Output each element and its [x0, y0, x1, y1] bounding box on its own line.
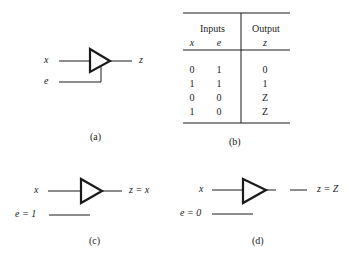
- table-cell: 0: [209, 93, 229, 103]
- a-input-x-label: x: [44, 55, 48, 65]
- a-caption: (a): [90, 132, 101, 142]
- tristate-buffer-d: [212, 179, 307, 214]
- table-group-header-output: Output: [252, 24, 280, 34]
- table-col-x: x: [182, 38, 202, 48]
- d-caption: (d): [252, 236, 264, 246]
- table-cell: 1: [209, 79, 229, 89]
- table-cell: Z: [255, 93, 275, 103]
- table-cell: 0: [182, 65, 202, 75]
- b-caption: (b): [229, 137, 241, 147]
- table-cell: 1: [182, 79, 202, 89]
- c-input-x-label: x: [34, 185, 38, 195]
- a-input-e-label: e: [44, 76, 48, 86]
- d-input-x-label: x: [199, 184, 203, 194]
- table-col-e: e: [209, 38, 229, 48]
- tristate-buffer-c: [48, 179, 122, 215]
- table-cell: 1: [255, 79, 275, 89]
- table-cell: 1: [209, 65, 229, 75]
- table-cell: 1: [182, 107, 202, 117]
- table-cell: Z: [255, 107, 275, 117]
- diagram-canvas: [0, 0, 357, 257]
- a-output-z-label: z: [139, 55, 143, 65]
- c-output-label: z = x: [129, 185, 149, 195]
- table-group-header-inputs: Inputs: [200, 24, 225, 34]
- tristate-buffer-a: [59, 49, 132, 82]
- d-input-e-label: e = 0: [180, 208, 201, 218]
- table-cell: 0: [209, 107, 229, 117]
- d-output-label: z = Z: [317, 184, 338, 194]
- table-col-z: z: [255, 38, 275, 48]
- table-cell: 0: [255, 65, 275, 75]
- table-cell: 0: [182, 93, 202, 103]
- c-input-e-label: e = 1: [15, 209, 36, 219]
- c-caption: (c): [89, 236, 100, 246]
